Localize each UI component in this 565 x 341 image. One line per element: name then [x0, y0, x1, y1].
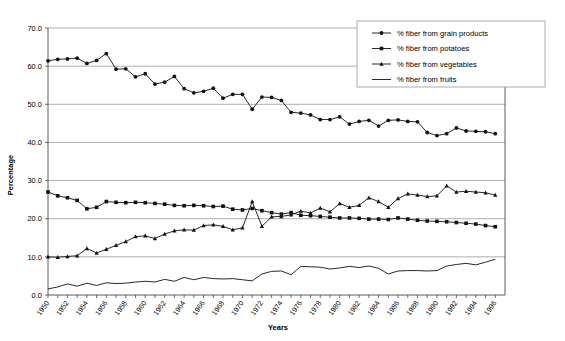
x-tick-label-1970: 1970	[229, 299, 246, 317]
data-point-0-38	[416, 120, 420, 124]
legend-label-0: % fiber from grain products	[397, 29, 488, 38]
data-point-1-40	[435, 220, 439, 224]
data-point-0-40	[435, 134, 439, 138]
data-point-1-42	[455, 221, 459, 225]
x-tick-label-1962: 1962	[151, 299, 168, 317]
x-tick-label-1984: 1984	[365, 299, 382, 317]
data-point-0-7	[114, 67, 118, 71]
data-point-0-45	[484, 130, 488, 134]
data-point-2-28	[318, 206, 322, 210]
data-point-1-38	[416, 218, 420, 222]
data-point-0-12	[163, 80, 167, 84]
x-tick-label-1980: 1980	[326, 299, 343, 317]
x-tick-label-1966: 1966	[190, 299, 207, 317]
x-tick-label-1978: 1978	[307, 299, 324, 317]
legend-marker-0	[380, 31, 384, 35]
data-point-2-20	[240, 226, 244, 230]
data-point-1-43	[464, 221, 468, 225]
x-tick-label-1954: 1954	[73, 299, 90, 317]
data-point-2-21	[250, 199, 254, 203]
chart-legend: % fiber from grain products% fiber from …	[357, 21, 545, 87]
data-point-1-19	[231, 207, 235, 211]
data-point-0-24	[279, 99, 283, 103]
data-point-1-39	[425, 219, 429, 223]
data-point-1-13	[173, 204, 177, 208]
x-tick-label-1974: 1974	[268, 299, 285, 317]
data-point-1-11	[153, 202, 157, 206]
x-tick-label-1990: 1990	[424, 299, 441, 317]
x-tick-label-1958: 1958	[112, 299, 129, 317]
data-point-0-17	[211, 86, 215, 90]
data-point-0-37	[406, 120, 410, 124]
data-point-2-4	[85, 246, 89, 250]
x-tick-label-1986: 1986	[385, 299, 402, 317]
data-point-0-32	[357, 120, 361, 124]
y-tick-label-20: 20.0	[27, 214, 42, 223]
data-point-0-34	[377, 124, 381, 128]
data-point-0-18	[221, 96, 225, 100]
data-point-1-21	[250, 207, 254, 211]
x-tick-label-1960: 1960	[132, 299, 149, 317]
x-tick-label-1982: 1982	[346, 299, 363, 317]
data-point-1-5	[95, 205, 99, 209]
data-point-0-9	[134, 75, 138, 79]
x-axis-title: Years	[268, 323, 288, 332]
data-point-0-35	[386, 118, 390, 122]
data-point-1-46	[493, 225, 497, 229]
x-tick-label-1996: 1996	[482, 299, 499, 317]
y-tick-label-0: 0.0	[32, 291, 42, 300]
x-tick-label-1992: 1992	[443, 299, 460, 317]
data-point-1-33	[367, 217, 371, 221]
data-point-0-43	[464, 129, 468, 133]
data-point-0-23	[270, 96, 274, 100]
y-tick-label-30: 30.0	[27, 176, 42, 185]
data-point-1-23	[270, 211, 274, 215]
data-point-0-4	[85, 62, 89, 66]
data-point-2-33	[367, 195, 371, 199]
data-point-1-26	[299, 213, 303, 217]
data-point-0-19	[231, 92, 235, 96]
data-point-1-16	[202, 204, 206, 208]
data-point-1-6	[105, 200, 109, 204]
x-tick-label-1972: 1972	[249, 299, 266, 317]
data-point-0-26	[299, 111, 303, 115]
data-point-0-46	[493, 132, 497, 136]
data-point-0-6	[104, 52, 108, 56]
data-point-2-37	[406, 192, 410, 196]
data-point-1-4	[85, 207, 89, 211]
data-point-1-31	[348, 216, 352, 220]
data-point-1-28	[318, 215, 322, 219]
data-point-1-15	[192, 204, 196, 208]
data-point-1-18	[221, 204, 225, 208]
data-point-0-22	[260, 95, 264, 99]
x-tick-label-1994: 1994	[462, 299, 479, 317]
data-point-1-32	[357, 217, 361, 221]
series-1	[46, 190, 497, 228]
data-point-0-21	[250, 107, 254, 111]
data-point-1-22	[260, 209, 264, 213]
data-point-1-0	[46, 190, 50, 194]
x-tick-label-1964: 1964	[171, 299, 188, 317]
data-point-2-30	[338, 201, 342, 205]
data-point-0-44	[474, 129, 478, 133]
data-point-1-44	[474, 222, 478, 226]
x-tick-label-1968: 1968	[210, 299, 227, 317]
data-point-0-20	[241, 92, 245, 96]
data-point-0-5	[95, 59, 99, 63]
y-tick-label-60: 60.0	[27, 62, 42, 71]
data-point-1-17	[211, 205, 215, 209]
data-point-1-1	[56, 194, 60, 198]
legend-label-1: % fiber from potatoes	[397, 44, 469, 53]
data-point-0-1	[56, 57, 60, 61]
chart-canvas: 0.010.020.030.040.050.060.070.0 19501952…	[0, 0, 565, 341]
data-point-0-8	[124, 67, 128, 71]
legend-label-2: % fiber from vegetables	[397, 60, 477, 69]
x-tick-label-1950: 1950	[35, 299, 52, 317]
data-point-1-45	[484, 224, 488, 228]
x-tick-label-1956: 1956	[93, 299, 110, 317]
y-tick-label-10: 10.0	[27, 253, 42, 262]
data-point-0-29	[328, 118, 332, 122]
x-tick-label-1952: 1952	[54, 299, 71, 317]
data-point-1-35	[387, 218, 391, 222]
y-tick-label-70: 70.0	[27, 24, 42, 33]
